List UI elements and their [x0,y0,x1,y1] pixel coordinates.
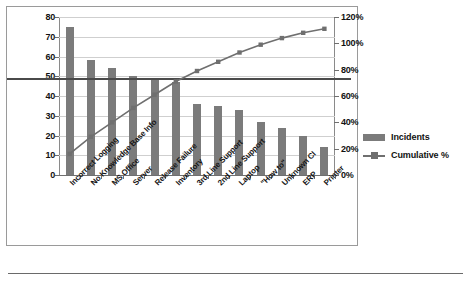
legend-item-cumulative: Cumulative % [363,146,467,164]
left-axis-tick-label: 30 [45,111,55,121]
left-axis-tick-label: 20 [45,131,55,141]
chart-legend: Incidents Cumulative % [363,128,467,164]
line-square-swatch-icon [363,151,385,160]
cumulative-marker [280,36,284,40]
cumulative-marker [322,27,326,31]
cumulative-marker [131,106,135,110]
left-axis-tick-label: 0 [50,170,55,180]
cumulative-marker [67,152,71,156]
cumulative-polyline [70,29,325,154]
left-axis-tick-label: 10 [45,150,55,160]
right-axis-tick-label: 60% [341,91,358,101]
left-axis-tick-label: 60 [45,52,55,62]
cumulative-marker [195,69,199,73]
left-axis-tick-label: 80 [45,12,55,22]
category-axis-labels: Incorrect LoggingNo Knowledge Base InfoM… [59,179,335,243]
left-axis-tick-label: 40 [45,91,55,101]
chart-plot-frame: 01020304050607080 0%20%40%60%80%100%120%… [6,6,358,246]
right-axis-tick-label: 40% [341,117,358,127]
left-tick-mark [55,175,59,176]
left-axis-tick-label: 70 [45,32,55,42]
page-bottom-rule [8,273,463,274]
legend-item-incidents: Incidents [363,128,467,146]
right-axis-tick-label: 100% [341,38,363,48]
cumulative-marker [110,120,114,124]
legend-label-cumulative: Cumulative % [391,150,449,160]
cumulative-marker [259,43,263,47]
cumulative-marker [89,135,93,139]
right-axis-tick-label: 80% [341,65,358,75]
legend-label-incidents: Incidents [391,132,430,142]
cumulative-marker [237,50,241,54]
cumulative-marker [216,60,220,64]
cumulative-marker [152,93,156,97]
cumulative-marker [174,79,178,83]
pareto-chart-figure: 01020304050607080 0%20%40%60%80%100%120%… [0,0,471,288]
cumulative-marker [301,31,305,35]
bar-swatch-icon [363,134,385,141]
right-axis-tick-label: 20% [341,144,358,154]
right-axis-tick-label: 120% [341,12,363,22]
